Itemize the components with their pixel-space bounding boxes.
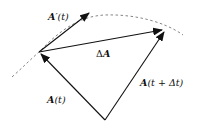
- vector-a-t-plus-dt: [105, 32, 164, 120]
- trajectory-curve: [12, 15, 183, 77]
- vector-derivative-diagram: A′(t) ΔA A(t) A(t + Δt): [0, 0, 198, 130]
- label-a-t: A(t): [46, 94, 66, 105]
- label-a-t-plus-dt: A(t + Δt): [139, 77, 184, 88]
- vector-a-t: [41, 54, 105, 120]
- label-delta-a: ΔA: [96, 48, 110, 59]
- label-derivative: A′(t): [47, 11, 69, 22]
